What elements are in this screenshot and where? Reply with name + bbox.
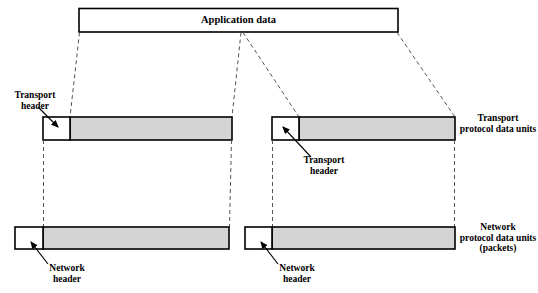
transport-pdu-1-payload — [70, 117, 232, 140]
transport-header-label-2: Transport header — [291, 155, 357, 176]
network-pdu-group-label: Network protocol data units (packets) — [458, 222, 538, 254]
transport-pdu-2-header — [272, 117, 299, 140]
encapsulation-diagram: Application data Transport header Transp… — [0, 0, 538, 293]
dashed-connector-app-left-to-tpdu1-left — [70, 33, 80, 118]
transport-pdu-group-label: Transport protocol data units — [459, 113, 537, 134]
network-pdu-1-payload — [43, 227, 229, 249]
dashed-connector-tpdu1-right-to-npdu1-right — [230, 140, 232, 227]
network-pdu-2-header — [245, 227, 272, 249]
network-pdu-1-header — [15, 227, 43, 249]
dashed-connector-app-mid-to-tpdu1-right — [232, 33, 241, 118]
dashed-connector-app-mid-to-tpdu2-left — [243, 33, 299, 118]
network-header-label-2: Network header — [266, 263, 328, 284]
application-data-label: Application data — [79, 14, 398, 25]
transport-pdu-2-payload — [299, 117, 455, 140]
dashed-connector-app-right-to-tpdu2-right — [397, 33, 455, 118]
transport-header-label-1: Transport header — [2, 90, 68, 111]
network-pdu-2-payload — [272, 227, 455, 249]
network-header-label-1: Network header — [36, 263, 98, 284]
transport-pdu-1-header — [43, 117, 70, 140]
